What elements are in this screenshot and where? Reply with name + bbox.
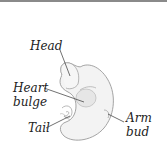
label-arm-bud-line2: bud (126, 126, 149, 138)
heart-bulge-shape (76, 89, 96, 107)
label-heart-bulge-line1: Heart (13, 82, 48, 94)
label-heart-bulge-line2: bulge (13, 96, 47, 108)
label-head: Head (30, 40, 62, 52)
label-arm-bud-line1: Arm (126, 112, 152, 124)
tail-shape (62, 106, 72, 118)
label-tail: Tail (28, 122, 50, 134)
embryo-diagram: Head Heart bulge Tail Arm bud (0, 0, 167, 157)
